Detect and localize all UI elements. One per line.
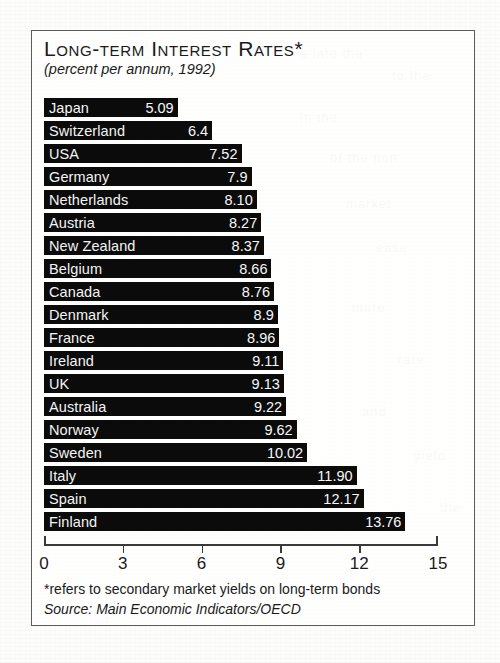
bar-value-label: 9.62 [264, 422, 292, 438]
bar-row: Japan5.09 [44, 97, 464, 120]
page-title: Long-term Interest Rates* [44, 37, 466, 61]
footnote-text: *refers to secondary market yields on lo… [44, 581, 466, 599]
x-axis-tick-label: 0 [39, 554, 48, 574]
bar-value-label: 11.90 [317, 468, 352, 484]
bar-category-label: Sweden [49, 445, 102, 461]
bar-value-label: 13.76 [365, 514, 401, 530]
bar-category-label: Finland [49, 514, 97, 530]
x-axis-line [44, 544, 438, 546]
x-axis-tick [436, 536, 438, 545]
bar-value-label: 5.09 [145, 100, 173, 116]
bar-value-label: 7.52 [209, 146, 237, 162]
bar-row: Canada8.76 [44, 281, 464, 304]
bar-value-label: 8.9 [254, 307, 274, 323]
bar-row: Switzerland6.4 [44, 120, 464, 143]
bar-row: France8.96 [44, 327, 464, 350]
bar-category-label: Italy [49, 468, 76, 484]
bar-row: Australia9.22 [44, 396, 464, 419]
bar: Switzerland6.4 [44, 121, 212, 140]
bar-value-label: 8.66 [239, 261, 267, 277]
bar-value-label: 8.27 [229, 215, 257, 231]
bar: Australia9.22 [44, 397, 286, 416]
bar-value-label: 8.37 [232, 238, 260, 254]
bar: France8.96 [44, 328, 279, 347]
bar-row: Ireland9.11 [44, 350, 464, 373]
bar-value-label: 10.02 [267, 445, 303, 461]
bar: UK9.13 [44, 374, 284, 393]
bar: Japan5.09 [44, 98, 178, 117]
bar-category-label: Denmark [49, 307, 109, 323]
bar-category-label: Ireland [49, 353, 94, 369]
bar-row: Norway9.62 [44, 419, 464, 442]
bar: Sweden10.02 [44, 443, 307, 462]
x-axis-tick [359, 544, 361, 553]
bar-row: Belgium8.66 [44, 258, 464, 281]
x-axis-tick-label: 9 [276, 554, 285, 574]
bar: Finland13.76 [44, 512, 405, 531]
x-axis-tick-label: 3 [118, 554, 127, 574]
bar-category-label: Austria [49, 215, 95, 231]
bar-row: Spain12.17 [44, 488, 464, 511]
x-axis-tick [202, 544, 204, 553]
bar-category-label: Belgium [49, 261, 102, 277]
x-axis-tick [44, 536, 46, 545]
bar-category-label: Netherlands [49, 192, 128, 208]
x-axis-tick [123, 544, 125, 553]
figure-notes: *refers to secondary market yields on lo… [44, 581, 466, 618]
bar-category-label: UK [49, 376, 69, 392]
figure-frame: Long-term Interest Rates* (percent per a… [31, 30, 475, 626]
bar: Austria8.27 [44, 213, 261, 232]
bar-row: Finland13.76 [44, 511, 464, 534]
bar-value-label: 8.76 [242, 284, 270, 300]
bar-category-label: Japan [49, 100, 89, 116]
bar-row: New Zealand8.37 [44, 235, 464, 258]
bar: Canada8.76 [44, 282, 274, 301]
bar-category-label: Spain [49, 491, 87, 507]
figure-header: Long-term Interest Rates* (percent per a… [44, 37, 466, 77]
bar-category-label: Canada [49, 284, 100, 300]
bar: Spain12.17 [44, 489, 364, 508]
chart-subtitle: (percent per annum, 1992) [44, 62, 466, 78]
bar-row: Austria8.27 [44, 212, 464, 235]
bar-value-label: 9.11 [252, 353, 279, 369]
source-text: Source: Main Economic Indicators/OECD [44, 601, 466, 619]
bar-row: Netherlands8.10 [44, 189, 464, 212]
x-axis-tick-label: 12 [350, 554, 369, 574]
bar: New Zealand8.37 [44, 236, 264, 255]
bar-value-label: 12.17 [323, 491, 359, 507]
bar-category-label: New Zealand [49, 238, 136, 254]
bar: Norway9.62 [44, 420, 297, 439]
bar-category-label: France [49, 330, 95, 346]
bar: Denmark8.9 [44, 305, 278, 324]
x-axis-tick [280, 544, 282, 553]
bar-row: Sweden10.02 [44, 442, 464, 465]
bar-chart-plot-area: Japan5.09Switzerland6.4USA7.52Germany7.9… [44, 97, 464, 544]
x-axis-tick-label: 15 [429, 554, 448, 574]
bar-category-label: USA [49, 146, 79, 162]
bar-category-label: Switzerland [49, 123, 125, 139]
bar-row: UK9.13 [44, 373, 464, 396]
bar-value-label: 7.9 [227, 169, 247, 185]
bar-category-label: Germany [49, 169, 109, 185]
bar: Germany7.9 [44, 167, 252, 186]
bar: Italy11.90 [44, 466, 357, 485]
bar: USA7.52 [44, 144, 242, 163]
bar-category-label: Australia [49, 399, 106, 415]
bar-value-label: 9.13 [252, 376, 280, 392]
bar-category-label: Norway [49, 422, 99, 438]
bar-value-label: 6.4 [188, 123, 208, 139]
bar-row: Denmark8.9 [44, 304, 464, 327]
bar-value-label: 9.22 [254, 399, 282, 415]
x-axis: 03691215 [44, 544, 464, 578]
bar: Ireland9.11 [44, 351, 283, 370]
bar: Netherlands8.10 [44, 190, 257, 209]
bar: Belgium8.66 [44, 259, 271, 278]
bar-value-label: 8.96 [247, 330, 275, 346]
x-axis-tick-label: 6 [197, 554, 206, 574]
bar-row: Germany7.9 [44, 166, 464, 189]
bar-row: Italy11.90 [44, 465, 464, 488]
bar-value-label: 8.10 [225, 192, 253, 208]
bar-row: USA7.52 [44, 143, 464, 166]
